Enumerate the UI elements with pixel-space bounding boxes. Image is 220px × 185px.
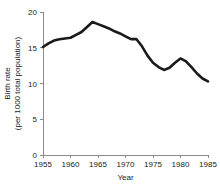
x-tick-label: 1975 — [144, 160, 162, 169]
x-axis-title: Year — [117, 173, 134, 182]
x-tick-label: 1980 — [172, 160, 190, 169]
y-tick-label: 15 — [28, 44, 37, 53]
x-tick-label: 1970 — [117, 160, 135, 169]
y-tick-label: 5 — [33, 115, 38, 124]
chart-page: 05101520 1955196019651970197519801985 Ye… — [0, 0, 220, 185]
y-tick-label: 10 — [28, 80, 37, 89]
data-series-line — [43, 22, 208, 81]
y-axis-title-line1: Birth rate — [3, 67, 12, 100]
birth-rate-line-chart: 05101520 1955196019651970197519801985 Ye… — [0, 0, 220, 185]
x-tick-label: 1985 — [199, 160, 217, 169]
y-axis-ticks: 05101520 — [28, 8, 43, 160]
x-axis-ticks: 1955196019651970197519801985 — [34, 155, 217, 169]
x-axis: 1955196019651970197519801985 — [34, 155, 217, 169]
y-tick-label: 20 — [28, 8, 37, 17]
y-tick-label: 0 — [33, 151, 38, 160]
x-tick-label: 1965 — [89, 160, 107, 169]
x-tick-label: 1960 — [62, 160, 80, 169]
x-tick-label: 1955 — [34, 160, 52, 169]
y-axis-title-line2: (per 1000 total population) — [13, 36, 22, 130]
y-axis: 05101520 — [28, 8, 43, 160]
